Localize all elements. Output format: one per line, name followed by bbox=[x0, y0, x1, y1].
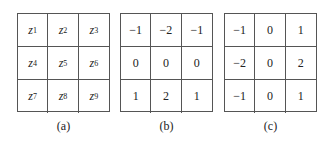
grid-cell: 1 bbox=[121, 80, 151, 113]
sobel-kernel-horizontal: −1 −2 −1 0 0 0 1 2 1 bbox=[120, 13, 213, 112]
grid-cell: z6 bbox=[79, 47, 109, 80]
grid-cell: 2 bbox=[151, 80, 181, 113]
grid-cell: 0 bbox=[121, 47, 151, 80]
grid-cell: 1 bbox=[182, 80, 212, 113]
grid-cell: z1 bbox=[18, 14, 48, 47]
grid-cell: 0 bbox=[255, 80, 285, 113]
grid-cell: z9 bbox=[79, 80, 109, 113]
panel-caption: (b) bbox=[120, 119, 213, 134]
grid-cell: −1 bbox=[225, 14, 255, 47]
grid-cell: −1 bbox=[225, 80, 255, 113]
grid-cell: z2 bbox=[48, 14, 78, 47]
grid-cell: 0 bbox=[255, 14, 285, 47]
pixel-neighborhood-grid: z1 z2 z3 z4 z5 z6 z7 z8 z9 bbox=[17, 13, 110, 112]
grid-cell: 1 bbox=[286, 80, 316, 113]
grid-cell: −2 bbox=[225, 47, 255, 80]
panel-b: −1 −2 −1 0 0 0 1 2 1 (b) bbox=[120, 13, 213, 134]
grid-cell: z4 bbox=[18, 47, 48, 80]
grid-cell: −2 bbox=[151, 14, 181, 47]
panel-caption: (a) bbox=[17, 119, 110, 134]
grid-cell: z3 bbox=[79, 14, 109, 47]
grid-cell: −1 bbox=[182, 14, 212, 47]
panel-caption: (c) bbox=[224, 119, 317, 134]
grid-cell: z8 bbox=[48, 80, 78, 113]
grid-cell: 0 bbox=[151, 47, 181, 80]
grid-cell: z5 bbox=[48, 47, 78, 80]
grid-cell: −1 bbox=[121, 14, 151, 47]
grid-cell: 0 bbox=[182, 47, 212, 80]
grid-cell: 1 bbox=[286, 14, 316, 47]
sobel-kernel-vertical: −1 0 1 −2 0 2 −1 0 1 bbox=[224, 13, 317, 112]
grid-cell: 0 bbox=[255, 47, 285, 80]
panel-a: z1 z2 z3 z4 z5 z6 z7 z8 z9 (a) bbox=[17, 13, 110, 134]
grid-cell: 2 bbox=[286, 47, 316, 80]
panel-c: −1 0 1 −2 0 2 −1 0 1 (c) bbox=[224, 13, 317, 134]
grid-cell: z7 bbox=[18, 80, 48, 113]
